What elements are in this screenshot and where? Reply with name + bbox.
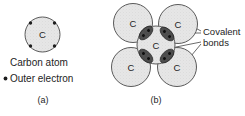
atom-symbol-label: C (130, 18, 137, 29)
atom-symbol-label: C (128, 62, 135, 73)
subfigure-label-a: (a) (38, 95, 49, 105)
subfigure-label-b: (b) (151, 95, 162, 105)
outer-electron-caption: Outer electron (10, 73, 73, 84)
figure-svg: C Carbon atom Outer electron (a) (0, 0, 245, 116)
outer-electron-dot (29, 21, 32, 24)
atom-symbol-label: C (39, 29, 46, 40)
covalent-bonds-label-line2: bonds (203, 37, 229, 48)
outer-electron-legend-dot (4, 77, 8, 81)
covalent-bonds-label-line1: Covalent (203, 26, 241, 37)
panel-a: C Carbon atom Outer electron (a) (4, 17, 74, 105)
outer-electron-dot (53, 21, 56, 24)
carbon-atom-circle-a: C (25, 17, 60, 52)
carbon-atom-caption: Carbon atom (10, 57, 68, 68)
figure-container: C Carbon atom Outer electron (a) (0, 0, 245, 116)
atom-symbol-label: C (153, 40, 160, 51)
panel-b: C C C C (112, 4, 241, 106)
outer-electron-dot (29, 44, 32, 47)
atom-symbol-label: C (174, 62, 181, 73)
outer-electron-dot (53, 44, 56, 47)
atom-symbol-label: C (175, 19, 182, 30)
